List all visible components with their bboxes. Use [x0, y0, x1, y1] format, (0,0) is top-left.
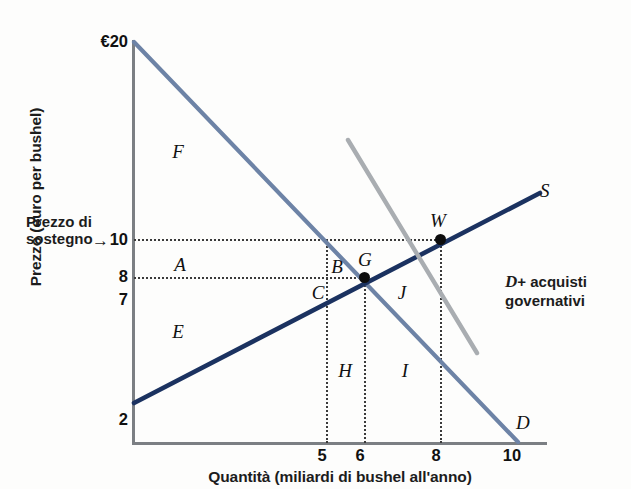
region-label-b: B	[325, 256, 349, 278]
point-marker-g	[359, 272, 370, 283]
demand-curve-label: D	[516, 412, 530, 434]
region-label-f: F	[166, 141, 190, 163]
demand-curve	[134, 42, 518, 442]
point-label-g: G	[358, 249, 372, 271]
demand-plus-government-curve	[348, 140, 477, 353]
demand-plus-government-label-italic: D	[505, 272, 517, 291]
region-label-c: C	[306, 282, 330, 304]
region-label-j: J	[390, 282, 414, 304]
region-label-e: E	[166, 321, 190, 343]
curves-layer	[0, 0, 631, 489]
point-label-w: W	[430, 210, 446, 232]
region-label-i: I	[393, 360, 417, 382]
point-marker-w	[435, 234, 446, 245]
price-support-chart: Prezzo (euro per bushel) Quantità (milia…	[0, 0, 631, 489]
demand-plus-government-label-rest: + acquisti governativi	[505, 273, 587, 309]
supply-curve-label: S	[540, 180, 550, 202]
region-label-a: A	[168, 254, 192, 276]
region-label-h: H	[333, 360, 357, 382]
demand-plus-government-label: D+ acquisti governativi	[505, 272, 629, 310]
